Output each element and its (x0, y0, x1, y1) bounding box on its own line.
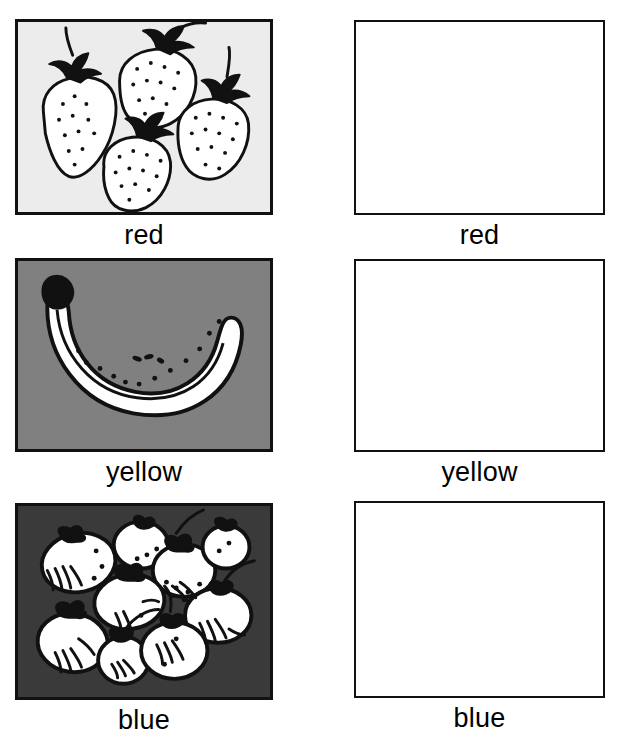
picture-cell-blue: blue (15, 503, 273, 736)
answer-caption-yellow: yellow (354, 456, 605, 488)
answer-caption-blue: blue (354, 702, 605, 734)
picture-panel-red (15, 19, 273, 215)
picture-cell-red: red (15, 19, 273, 251)
answer-cell-yellow: yellow (354, 259, 605, 488)
picture-caption-yellow: yellow (15, 456, 273, 488)
picture-panel-blue (15, 503, 273, 700)
answer-box-yellow[interactable] (354, 259, 605, 452)
answer-cell-red: red (354, 20, 605, 251)
worksheet-page: red red (0, 0, 624, 740)
answer-cell-blue: blue (354, 501, 605, 734)
banana-illustration (18, 261, 270, 450)
picture-panel-yellow (15, 258, 273, 452)
answer-box-red[interactable] (354, 20, 605, 215)
answer-box-blue[interactable] (354, 501, 605, 698)
berries-illustration (18, 506, 270, 698)
picture-caption-red: red (15, 219, 273, 251)
picture-cell-yellow: yellow (15, 258, 273, 488)
strawberries-illustration (18, 22, 270, 213)
picture-caption-blue: blue (15, 704, 273, 736)
answer-caption-red: red (354, 219, 605, 251)
